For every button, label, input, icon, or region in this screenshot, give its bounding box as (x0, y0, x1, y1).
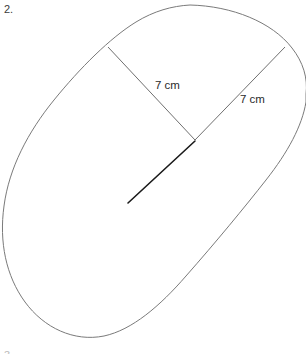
next-problem-number-partial: 3. (4, 350, 13, 354)
radius-left-measure-label: 7 cm (155, 78, 180, 92)
radius-right-measure-label: 7 cm (240, 92, 265, 106)
geometry-diagram (0, 0, 306, 359)
radius-line-left (108, 47, 195, 140)
figure-canvas: 2. 7 cm 7 cm 3. (0, 0, 306, 359)
problem-number-label: 2. (4, 2, 13, 16)
shape-outline (2, 5, 306, 337)
sector-arm-line (128, 141, 195, 203)
